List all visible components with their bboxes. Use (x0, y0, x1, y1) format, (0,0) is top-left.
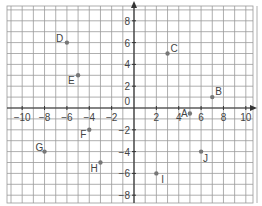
coordinate-grid: −10−8−6−4−22468108642−2−4−6−80ABCDEFGHIJ (0, 0, 262, 206)
x-tick-label: 8 (221, 112, 227, 123)
y-tick-label: −8 (119, 190, 131, 201)
y-arrow-icon (131, 1, 137, 8)
y-tick-label: 4 (124, 59, 130, 70)
point-c (165, 51, 169, 55)
x-arrow-icon (250, 105, 257, 111)
point-label: D (56, 33, 63, 44)
point-e (76, 73, 80, 77)
point-label: A (181, 108, 188, 119)
point-b (210, 95, 214, 99)
point-label: I (161, 174, 164, 185)
x-tick-label: 6 (198, 112, 204, 123)
point-label: C (171, 43, 178, 54)
x-tick-label: −6 (61, 112, 73, 123)
x-tick-label: −2 (106, 112, 118, 123)
x-tick-label: 10 (240, 112, 252, 123)
point-label: B (215, 86, 222, 97)
y-tick-label: −4 (119, 147, 131, 158)
y-tick-label: 8 (124, 16, 130, 27)
point-f (87, 128, 91, 132)
point-label: F (80, 129, 86, 140)
point-h (98, 160, 102, 164)
x-tick-label: −4 (84, 112, 96, 123)
x-tick-label: −10 (14, 112, 31, 123)
point-label: H (90, 163, 97, 174)
point-label: G (36, 142, 44, 153)
y-tick-label: 6 (124, 38, 130, 49)
point-i (154, 171, 158, 175)
point-label: E (68, 75, 75, 86)
x-tick-label: −8 (39, 112, 51, 123)
y-tick-label: −6 (119, 168, 131, 179)
point-a (188, 111, 192, 115)
y-tick-label: −2 (119, 125, 131, 136)
x-tick-label: 2 (154, 112, 160, 123)
point-d (65, 40, 69, 44)
y-tick-label: 2 (124, 81, 130, 92)
point-label: J (203, 153, 208, 164)
origin-label: 0 (124, 96, 130, 107)
